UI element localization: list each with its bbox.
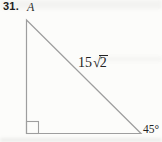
hypotenuse-length-label: 15√2	[78, 55, 108, 71]
hypotenuse-radicand: 2	[99, 55, 108, 71]
triangle-outline	[27, 20, 142, 134]
triangle-diagram	[0, 0, 162, 142]
vertex-label-a: A	[27, 0, 34, 15]
problem-number: 31.	[3, 0, 19, 12]
worksheet-figure: 31. A 15√2 45°	[0, 0, 162, 142]
right-angle-marker	[27, 122, 39, 134]
angle-label-45: 45°	[143, 123, 159, 135]
hypotenuse-coefficient: 15	[78, 55, 92, 70]
